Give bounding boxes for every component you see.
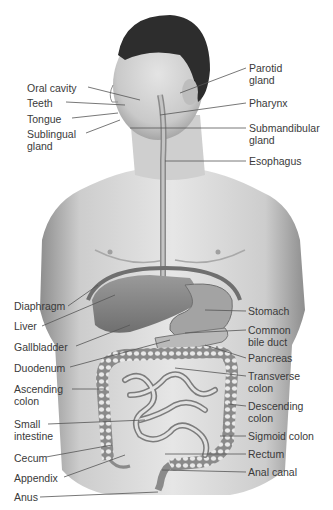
label-gallbladder: Gallbladder <box>14 341 68 353</box>
label-small-intestine: Small intestine <box>14 418 53 442</box>
label-sublingual-gland: Sublingual gland <box>27 128 76 152</box>
label-oral-cavity: Oral cavity <box>27 82 77 94</box>
label-ascending-colon: Ascending colon <box>14 383 63 407</box>
label-common-bile-duct: Common bile duct <box>248 324 291 348</box>
label-pancreas: Pancreas <box>248 352 292 364</box>
label-teeth: Teeth <box>27 97 53 109</box>
label-esophagus: Esophagus <box>249 155 302 167</box>
label-rectum: Rectum <box>248 448 284 460</box>
label-sigmoid-colon: Sigmoid colon <box>248 430 314 442</box>
label-tongue: Tongue <box>27 113 61 125</box>
label-pharynx: Pharynx <box>249 97 288 109</box>
label-diaphragm: Diaphragm <box>14 300 65 312</box>
label-stomach: Stomach <box>248 305 289 317</box>
label-anal-canal: Anal canal <box>248 466 297 478</box>
label-parotid-gland: Parotid gland <box>249 62 282 86</box>
label-submandibular-gland: Submandibular gland <box>249 122 320 146</box>
label-appendix: Appendix <box>14 472 58 484</box>
label-descending-colon: Descending colon <box>248 400 303 424</box>
label-anus: Anus <box>14 491 38 503</box>
label-liver: Liver <box>14 320 37 332</box>
label-cecum: Cecum <box>14 452 47 464</box>
label-transverse-colon: Transverse colon <box>248 370 300 394</box>
label-duodenum: Duodenum <box>14 362 65 374</box>
